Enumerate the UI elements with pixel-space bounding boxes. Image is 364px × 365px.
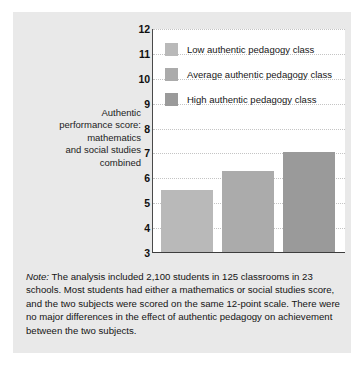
plot-area: Low authentic pedagogy class Average aut…	[152, 29, 345, 253]
bar[interactable]	[161, 190, 213, 252]
y-axis-tick-label: 5	[128, 197, 150, 209]
y-axis-tick-label: 9	[128, 98, 150, 110]
y-axis-title-line: combined	[19, 157, 141, 169]
legend-swatch-average-icon	[165, 68, 178, 81]
note-label: Note:	[26, 271, 49, 282]
plot-wrapper: 1211109876543 Low authentic pedagogy cla…	[152, 29, 345, 253]
y-axis-title-line: Authentic	[19, 107, 141, 119]
bar[interactable]	[222, 171, 274, 252]
y-axis-tick-label: 12	[128, 23, 150, 35]
figure-panel: Authentic performance score: mathematics…	[13, 12, 351, 353]
legend-label: High authentic pedagogy class	[187, 94, 316, 105]
y-axis-title: Authentic performance score: mathematics…	[19, 107, 141, 169]
y-axis-tick-label: 11	[128, 48, 150, 60]
legend-label: Average authentic pedagogy class	[187, 69, 332, 80]
y-axis-tick-label: 10	[128, 73, 150, 85]
y-axis-tick-label: 3	[128, 247, 150, 259]
legend-item: Low authentic pedagogy class	[165, 37, 343, 62]
y-axis-tick-label: 6	[128, 172, 150, 184]
note-text: The analysis included 2,100 students in …	[26, 271, 340, 336]
legend-swatch-high-icon	[165, 93, 178, 106]
figure-note: Note: The analysis included 2,100 studen…	[26, 270, 342, 337]
y-axis-title-line: performance score:	[19, 119, 141, 131]
legend-label: Low authentic pedagogy class	[187, 44, 314, 55]
y-axis-title-line: and social studies	[19, 144, 141, 156]
legend-item: High authentic pedagogy class	[165, 87, 343, 112]
legend-item: Average authentic pedagogy class	[165, 62, 343, 87]
y-axis-title-line: mathematics	[19, 132, 141, 144]
bar-chart: Authentic performance score: mathematics…	[13, 12, 351, 264]
y-axis-ticks: 1211109876543	[128, 29, 150, 253]
y-axis-tick-label: 7	[128, 147, 150, 159]
chart-legend: Low authentic pedagogy class Average aut…	[165, 37, 343, 112]
y-axis-tick-label: 8	[128, 123, 150, 135]
y-axis-tick-label: 4	[128, 222, 150, 234]
bar[interactable]	[283, 152, 335, 252]
legend-swatch-low-icon	[165, 43, 178, 56]
